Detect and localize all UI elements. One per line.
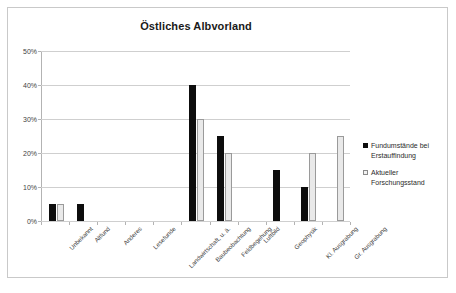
chart-legend: Fundumstände bei ErstauffindungAktueller… — [363, 141, 451, 195]
y-tick-label: 40% — [23, 82, 37, 89]
y-tick-mark — [38, 51, 41, 52]
chart-title: Östliches Albvorland — [41, 20, 351, 32]
bar[interactable] — [197, 119, 204, 221]
bar[interactable] — [273, 170, 280, 221]
legend-swatch-icon — [363, 170, 368, 175]
gridline — [41, 221, 350, 222]
legend-label: Aktueller Forschungsstand — [371, 168, 451, 187]
y-tick-label: 20% — [23, 150, 37, 157]
x-tick-mark — [350, 222, 351, 225]
y-tick-mark — [38, 85, 41, 86]
x-tick-mark — [153, 222, 154, 225]
legend-entry[interactable]: Fundumstände bei Erstauffindung — [363, 141, 451, 160]
x-tick-mark — [238, 222, 239, 225]
y-tick-mark — [38, 119, 41, 120]
legend-entry[interactable]: Aktueller Forschungsstand — [363, 168, 451, 187]
x-tick-mark — [322, 222, 323, 225]
y-tick-label: 10% — [23, 184, 37, 191]
bar[interactable] — [225, 153, 232, 221]
x-tick-mark — [125, 222, 126, 225]
x-tick-mark — [294, 222, 295, 225]
chart-container: Östliches Albvorland 0%10%20%30%40%50% U… — [0, 0, 456, 293]
x-tick-mark — [266, 222, 267, 225]
y-tick-label: 0% — [27, 218, 37, 225]
y-tick-label: 30% — [23, 116, 37, 123]
x-tick-mark — [210, 222, 211, 225]
x-tick-mark — [97, 222, 98, 225]
plot-area: 0%10%20%30%40%50% UnbekanntAltfundAndere… — [41, 51, 350, 222]
bar[interactable] — [217, 136, 224, 221]
gridline — [41, 51, 350, 52]
bar[interactable] — [337, 136, 344, 221]
y-tick-mark — [38, 187, 41, 188]
bar[interactable] — [301, 187, 308, 221]
legend-label: Fundumstände bei Erstauffindung — [371, 141, 451, 160]
bar[interactable] — [189, 85, 196, 221]
bar[interactable] — [309, 153, 316, 221]
bar[interactable] — [57, 204, 64, 221]
y-axis-line — [41, 51, 42, 222]
y-tick-mark — [38, 153, 41, 154]
legend-swatch-icon — [363, 143, 368, 148]
x-tick-mark — [181, 222, 182, 225]
x-tick-mark — [41, 222, 42, 225]
bar[interactable] — [77, 204, 84, 221]
bar[interactable] — [49, 204, 56, 221]
x-tick-mark — [69, 222, 70, 225]
y-tick-label: 50% — [23, 48, 37, 55]
